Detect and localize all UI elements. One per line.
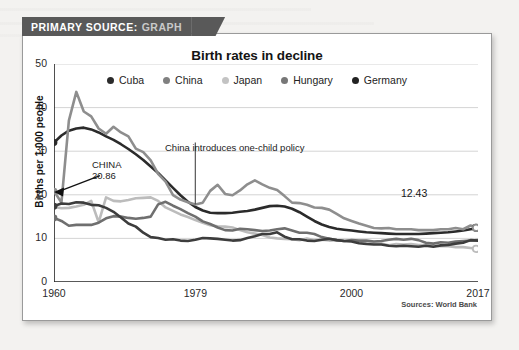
y-tick-label: 0 [23,275,47,287]
series-end-marker-china [473,225,478,231]
primary-source-banner: PRIMARY SOURCE: GRAPH [22,17,225,36]
series-line-japan[interactable] [54,197,478,248]
banner-tail-shape [191,17,225,36]
annotation-one-child-policy: China introduces one-child policy [165,142,304,153]
series-end-marker-japan [473,246,478,252]
chart-card: Birth rates in decline CubaChinaJapanHun… [22,33,492,321]
x-tick-label: 2017 [453,287,503,299]
banner-body: PRIMARY SOURCE: GRAPH [22,17,191,36]
x-tick-label: 1960 [29,287,79,299]
chart-title: Birth rates in decline [23,48,491,63]
banner-suffix-label: GRAPH [142,21,182,33]
y-tick-label: 50 [23,57,47,69]
annotation-cuba-end-value: 12.43 [401,187,427,199]
y-tick-label: 40 [23,101,47,113]
y-tick-label: 30 [23,144,47,156]
chart-source-note: Sources: World Bank [401,300,477,309]
x-tick-label: 2000 [327,287,377,299]
annotation-china-name: CHINA [92,159,122,170]
x-tick-label: 1979 [170,287,220,299]
y-tick-label: 10 [23,231,47,243]
banner-prefix-label: PRIMARY SOURCE: [31,21,138,33]
y-tick-label: 20 [23,188,47,200]
page-root: PRIMARY SOURCE: GRAPH Birth rates in dec… [0,0,519,350]
annotation-china-start: CHINA 20.86 [92,159,122,181]
annotation-china-value: 20.86 [92,170,122,181]
